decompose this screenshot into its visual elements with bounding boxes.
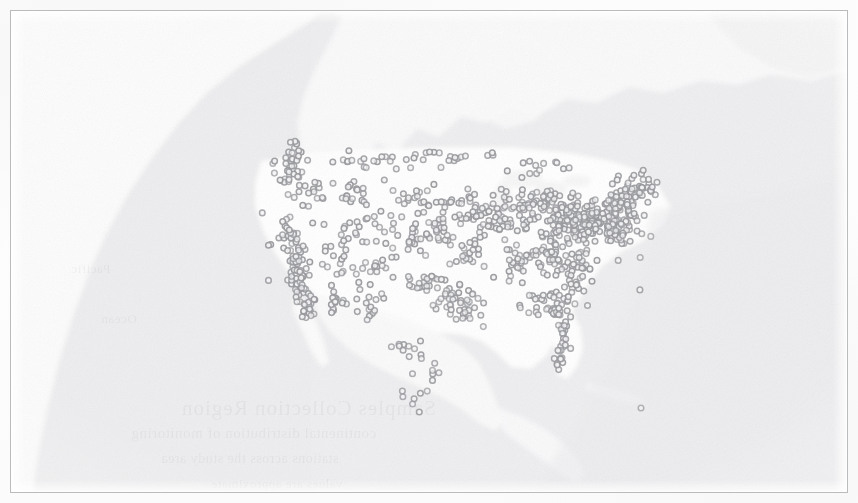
- data-point[interactable]: [406, 274, 412, 280]
- data-point[interactable]: [442, 205, 448, 211]
- data-point[interactable]: [389, 344, 395, 350]
- data-point[interactable]: [504, 247, 510, 253]
- data-point[interactable]: [350, 196, 356, 202]
- data-point[interactable]: [593, 226, 599, 232]
- data-point[interactable]: [520, 187, 526, 193]
- data-point[interactable]: [356, 224, 362, 230]
- data-point[interactable]: [300, 314, 306, 320]
- data-point[interactable]: [564, 308, 570, 314]
- data-point[interactable]: [631, 211, 637, 217]
- data-point[interactable]: [558, 356, 564, 362]
- data-point[interactable]: [363, 165, 369, 171]
- data-point[interactable]: [280, 232, 286, 238]
- data-point[interactable]: [405, 247, 411, 253]
- data-point[interactable]: [623, 186, 629, 192]
- data-point[interactable]: [395, 233, 401, 239]
- data-point[interactable]: [382, 177, 388, 183]
- data-point[interactable]: [341, 238, 347, 244]
- data-point[interactable]: [579, 265, 585, 271]
- data-point[interactable]: [475, 296, 481, 302]
- data-point[interactable]: [505, 224, 511, 230]
- data-point[interactable]: [518, 305, 524, 311]
- data-point[interactable]: [613, 228, 619, 234]
- data-point[interactable]: [366, 294, 372, 300]
- data-point[interactable]: [586, 222, 592, 228]
- data-point[interactable]: [536, 214, 542, 220]
- data-point[interactable]: [528, 194, 534, 200]
- data-point[interactable]: [527, 158, 533, 164]
- data-point[interactable]: [341, 253, 347, 259]
- data-point[interactable]: [526, 205, 532, 211]
- data-point[interactable]: [429, 273, 435, 279]
- data-point[interactable]: [321, 222, 327, 228]
- data-point[interactable]: [648, 234, 654, 240]
- data-point[interactable]: [404, 157, 410, 163]
- data-point[interactable]: [554, 160, 560, 166]
- data-point[interactable]: [289, 150, 295, 156]
- data-point[interactable]: [549, 249, 555, 255]
- data-point[interactable]: [420, 157, 426, 163]
- data-point[interactable]: [332, 299, 338, 305]
- data-point[interactable]: [514, 242, 520, 248]
- data-point[interactable]: [298, 275, 304, 281]
- data-point[interactable]: [285, 192, 291, 198]
- data-point[interactable]: [568, 272, 574, 278]
- data-point[interactable]: [511, 204, 517, 210]
- data-point[interactable]: [285, 248, 291, 254]
- data-point[interactable]: [463, 216, 469, 222]
- data-point[interactable]: [574, 282, 580, 288]
- data-point[interactable]: [410, 371, 416, 377]
- data-point[interactable]: [330, 181, 336, 187]
- data-point[interactable]: [421, 209, 427, 215]
- data-point[interactable]: [311, 297, 317, 303]
- data-point[interactable]: [418, 338, 424, 344]
- data-point[interactable]: [407, 283, 413, 289]
- data-point[interactable]: [534, 189, 540, 195]
- data-point[interactable]: [585, 303, 591, 309]
- data-point[interactable]: [527, 217, 533, 223]
- data-point[interactable]: [606, 224, 612, 230]
- data-point[interactable]: [515, 256, 521, 262]
- data-point[interactable]: [446, 158, 452, 164]
- data-point[interactable]: [639, 231, 645, 237]
- data-point[interactable]: [472, 192, 478, 198]
- data-point[interactable]: [614, 177, 620, 183]
- data-point[interactable]: [634, 218, 640, 224]
- data-point[interactable]: [548, 218, 554, 224]
- data-point[interactable]: [538, 264, 544, 270]
- data-point[interactable]: [272, 158, 278, 164]
- data-point[interactable]: [329, 310, 335, 316]
- data-point[interactable]: [570, 190, 576, 196]
- data-point[interactable]: [412, 346, 418, 352]
- data-point[interactable]: [535, 312, 541, 318]
- data-point[interactable]: [427, 149, 433, 155]
- data-point[interactable]: [554, 362, 560, 368]
- data-point[interactable]: [527, 171, 533, 177]
- data-point[interactable]: [430, 368, 436, 374]
- data-point[interactable]: [584, 204, 590, 210]
- data-point[interactable]: [406, 239, 412, 245]
- data-point[interactable]: [435, 235, 441, 241]
- data-point[interactable]: [400, 394, 406, 400]
- data-point[interactable]: [296, 189, 302, 195]
- data-point[interactable]: [472, 305, 478, 311]
- data-point[interactable]: [629, 186, 635, 192]
- data-point[interactable]: [296, 153, 302, 159]
- data-point[interactable]: [541, 204, 547, 210]
- data-point[interactable]: [459, 201, 465, 207]
- data-point[interactable]: [417, 409, 423, 415]
- data-point[interactable]: [425, 188, 431, 194]
- data-point[interactable]: [467, 240, 473, 246]
- data-point[interactable]: [566, 165, 572, 171]
- data-point[interactable]: [557, 193, 563, 199]
- data-point[interactable]: [526, 310, 532, 316]
- data-point[interactable]: [374, 269, 380, 275]
- data-point[interactable]: [553, 242, 559, 248]
- data-point[interactable]: [625, 180, 631, 186]
- data-point[interactable]: [555, 257, 561, 263]
- data-point[interactable]: [505, 168, 511, 174]
- data-point[interactable]: [434, 227, 440, 233]
- data-point[interactable]: [444, 233, 450, 239]
- data-point[interactable]: [423, 253, 429, 259]
- data-point[interactable]: [555, 348, 561, 354]
